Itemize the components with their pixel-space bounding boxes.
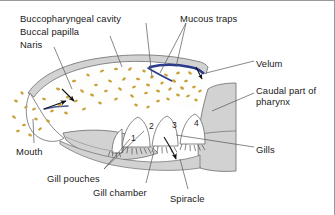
gill-pouches-group: [112, 114, 205, 153]
label-buccopharyngeal-cavity: Buccopharyngeal cavity: [20, 13, 121, 24]
label-naris: Naris: [20, 39, 42, 50]
gill-pouch-number-4: 4: [194, 118, 199, 128]
label-caudal-part-of-pharynx: Caudal part of pharynx: [256, 85, 322, 107]
label-gills: Gills: [256, 144, 275, 155]
label-gill-chamber: Gill chamber: [93, 187, 147, 198]
gill-pouch-number-3: 3: [172, 120, 177, 130]
gill-pouch-number-2: 2: [149, 121, 154, 131]
label-buccal-papilla: Buccal papilla: [20, 26, 79, 37]
anatomical-figure: Buccopharyngeal cavity Buccal papilla Na…: [0, 0, 335, 215]
gill-pouch-number-1: 1: [131, 133, 136, 143]
label-velum: Velum: [256, 58, 283, 69]
gill-pouch-2: [122, 117, 150, 147]
label-mouth: Mouth: [16, 146, 43, 157]
label-gill-pouches: Gill pouches: [47, 173, 100, 184]
caudal-pharynx-mass: [198, 83, 236, 171]
label-mucous-traps: Mucous traps: [180, 13, 237, 24]
label-spiracle: Spiracle: [170, 193, 205, 204]
